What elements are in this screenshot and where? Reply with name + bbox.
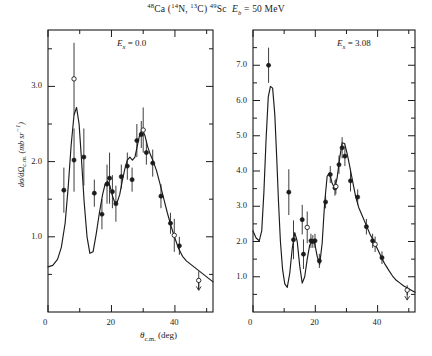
data-point-filled [323,200,327,204]
data-point-filled [130,178,134,182]
axis-tick-label: 40 [373,317,382,327]
axis-tick-label: 0 [43,317,47,327]
axis-tick-label: 5.0 [217,130,247,140]
data-point-filled [139,132,143,136]
figure-root: 48Ca (14N, 13C) 49Sc Eb = 50 MeV dσ/dΩc.… [0,0,432,356]
axis-tick-label: 1.0 [12,231,42,241]
axis-tick-label: 4.0 [217,165,247,175]
right-panel [253,30,415,312]
data-point-filled [92,191,96,195]
data-point-filled [159,194,163,198]
data-point-filled [144,150,148,154]
axis-tick-label: 0 [248,317,252,327]
dwba-theory-curve [48,107,213,281]
axis-tick-label: 40 [170,317,179,327]
data-point-filled [380,256,384,260]
axis-tick-label: 3.0 [12,80,42,90]
axis-tick-label: 2.0 [217,236,247,246]
plot-frame [48,30,213,312]
data-point-open [334,184,338,188]
data-point-filled [135,138,139,142]
left-panel [48,30,213,312]
data-point-filled [328,172,332,176]
axis-tick-label: 20 [310,317,319,327]
data-point-open [141,128,145,132]
data-point-filled [343,154,347,158]
data-point-filled [72,158,76,162]
data-point-filled [177,244,181,248]
data-point-filled [313,239,317,243]
data-point-filled [105,182,109,186]
data-point-open [197,278,201,282]
data-point-filled [348,179,352,183]
data-point-filled [110,190,114,194]
data-point-filled [62,188,66,192]
data-point-filled [291,238,295,242]
axis-tick-label: 2.0 [12,156,42,166]
data-point-filled [300,218,304,222]
axis-tick-label: 20 [106,317,115,327]
axis-tick-label: 3.0 [217,200,247,210]
data-point-filled [337,163,341,167]
data-point-filled [125,164,129,168]
axis-tick-label: 7.0 [217,59,247,69]
data-point-filled [151,161,155,165]
plot-canvas [0,0,432,356]
data-point-filled [317,259,321,263]
data-point-filled [82,155,86,159]
axis-tick-label: 1.0 [217,271,247,281]
axis-tick-label: 6.0 [217,95,247,105]
data-point-filled [107,176,111,180]
data-point-open [373,242,377,246]
data-point-filled [340,146,344,150]
data-point-filled [119,175,123,179]
data-point-filled [114,202,118,206]
data-point-filled [287,190,291,194]
data-point-open [172,233,176,237]
data-point-filled [301,252,305,256]
data-point-filled [356,195,360,199]
data-point-filled [100,212,104,216]
data-point-filled [364,225,368,229]
data-point-filled [168,221,172,225]
data-point-filled [266,63,270,67]
data-point-open [405,288,409,292]
data-point-open [305,225,309,229]
data-point-open [72,77,76,81]
